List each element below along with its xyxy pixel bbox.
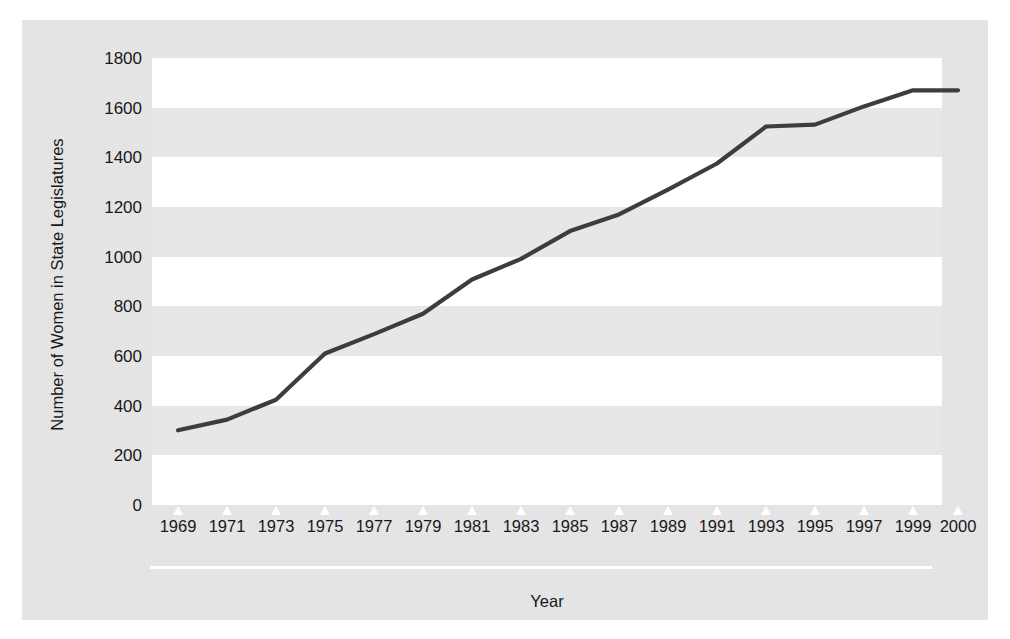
y-axis-ticks: 180016001400120010008006004002000 <box>72 58 142 505</box>
y-axis-tick-label: 600 <box>78 348 142 365</box>
x-axis-tick-mark <box>516 506 526 515</box>
x-axis-tick-label: 1971 <box>209 517 246 536</box>
x-axis-tick-mark <box>810 506 820 515</box>
chart-figure: 180016001400120010008006004002000 Number… <box>0 0 1010 639</box>
x-axis-tick-label: 1977 <box>356 517 393 536</box>
x-axis-tick-label: 1995 <box>797 517 834 536</box>
x-axis-tick-label: 1975 <box>307 517 344 536</box>
x-axis-tick-mark <box>369 506 379 515</box>
x-axis-tick-mark <box>859 506 869 515</box>
x-axis-tick-label: 1989 <box>650 517 687 536</box>
x-axis-ticks: 1969197119731975197719791981198319851987… <box>152 505 942 547</box>
x-axis-tick-label: 1997 <box>846 517 883 536</box>
x-axis-tick-label: 1985 <box>552 517 589 536</box>
y-axis-tick-label: 1600 <box>78 99 142 116</box>
x-axis-tick-label: 1979 <box>405 517 442 536</box>
x-axis-tick-mark <box>761 506 771 515</box>
x-axis-tick-mark <box>908 506 918 515</box>
series-line-chart <box>152 58 942 505</box>
y-axis-tick-label: 1200 <box>78 199 142 216</box>
x-axis-tick-label: 1991 <box>699 517 736 536</box>
y-axis-tick-label: 800 <box>78 298 142 315</box>
x-axis-tick-label: 2000 <box>940 517 977 536</box>
x-axis-tick-label: 1983 <box>503 517 540 536</box>
x-axis-tick-label: 1981 <box>454 517 491 536</box>
x-axis-tick-mark <box>953 506 963 515</box>
x-axis-tick-mark <box>271 506 281 515</box>
x-axis-tick-mark <box>320 506 330 515</box>
axis-divider-rule <box>150 566 932 569</box>
x-axis-title: Year <box>152 592 942 611</box>
x-axis-tick-label: 1999 <box>895 517 932 536</box>
plot-area <box>152 58 942 505</box>
x-axis-tick-mark <box>663 506 673 515</box>
x-axis-tick-mark <box>467 506 477 515</box>
y-axis-tick-label: 200 <box>78 447 142 464</box>
series-line <box>178 90 958 430</box>
x-axis-tick-mark <box>173 506 183 515</box>
y-axis-tick-label: 1800 <box>78 50 142 67</box>
x-axis-tick-mark <box>222 506 232 515</box>
y-axis-tick-label: 1000 <box>78 248 142 265</box>
y-axis-title: Number of Women in State Legislatures <box>48 85 67 485</box>
y-axis-tick-label: 400 <box>78 397 142 414</box>
x-axis-tick-mark <box>565 506 575 515</box>
x-axis-tick-mark <box>418 506 428 515</box>
y-axis-tick-label: 0 <box>78 497 142 514</box>
x-axis-tick-label: 1987 <box>601 517 638 536</box>
x-axis-tick-mark <box>614 506 624 515</box>
x-axis-tick-label: 1993 <box>748 517 785 536</box>
x-axis-tick-label: 1969 <box>160 517 197 536</box>
x-axis-tick-label: 1973 <box>258 517 295 536</box>
y-axis-tick-label: 1400 <box>78 149 142 166</box>
x-axis-tick-mark <box>712 506 722 515</box>
